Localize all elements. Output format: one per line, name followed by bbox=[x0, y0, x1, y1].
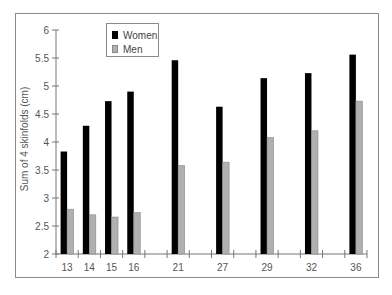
x-tick-label: 21 bbox=[173, 262, 185, 273]
legend-item-men: Men bbox=[112, 43, 142, 55]
women-bar bbox=[127, 92, 134, 254]
y-tick-label: 3.5 bbox=[35, 165, 49, 176]
y-tick-label: 4 bbox=[43, 137, 49, 148]
legend-label-men: Men bbox=[123, 44, 142, 55]
bar-group-21 bbox=[172, 60, 185, 254]
x-tick-label: 36 bbox=[350, 262, 362, 273]
bar-group-14 bbox=[83, 126, 96, 254]
men-bar bbox=[112, 217, 119, 254]
y-axis-title: Sum of 4 skinfolds (cm) bbox=[19, 87, 30, 191]
women-bar bbox=[261, 78, 268, 254]
bar-group-36 bbox=[349, 55, 362, 254]
bar-group-16 bbox=[127, 92, 140, 254]
y-tick-label: 3 bbox=[43, 193, 49, 204]
x-tick-label: 14 bbox=[84, 262, 96, 273]
y-axis: 22.533.544.555.56 bbox=[35, 25, 59, 260]
y-tick-label: 5.5 bbox=[35, 53, 49, 64]
y-tick-label: 5 bbox=[43, 81, 49, 92]
women-bar bbox=[216, 107, 223, 254]
x-tick-label: 13 bbox=[62, 262, 74, 273]
legend-label-women: Women bbox=[123, 30, 157, 41]
y-tick-label: 6 bbox=[43, 25, 49, 36]
legend: Women Men bbox=[106, 23, 159, 57]
men-bar bbox=[356, 101, 363, 254]
men-bar bbox=[134, 213, 141, 254]
men-bar bbox=[267, 138, 274, 254]
legend-item-women: Women bbox=[112, 29, 157, 41]
x-tick-label: 29 bbox=[261, 262, 273, 273]
women-bar bbox=[105, 101, 112, 254]
women-swatch-icon bbox=[112, 31, 118, 39]
y-tick-label: 2.5 bbox=[35, 221, 49, 232]
bar-group-13 bbox=[61, 152, 74, 254]
women-bar bbox=[305, 73, 312, 254]
bar-group-29 bbox=[261, 78, 274, 254]
y-tick-label: 4.5 bbox=[35, 109, 49, 120]
men-bar bbox=[89, 215, 96, 254]
x-tick-label: 16 bbox=[128, 262, 140, 273]
men-swatch-icon bbox=[112, 45, 118, 53]
bar-chart: 22.533.544.555.56 131415162127293236 Sum… bbox=[0, 0, 392, 295]
women-bar bbox=[172, 60, 179, 254]
x-axis: 131415162127293236 bbox=[56, 250, 367, 273]
men-bar bbox=[311, 131, 318, 254]
men-bar bbox=[67, 209, 74, 254]
women-bar bbox=[61, 152, 68, 254]
x-tick-label: 15 bbox=[106, 262, 118, 273]
bar-group-27 bbox=[216, 107, 229, 254]
x-tick-label: 27 bbox=[217, 262, 229, 273]
bar-group-15 bbox=[105, 101, 118, 254]
bar-group-32 bbox=[305, 73, 318, 254]
x-tick-label: 32 bbox=[306, 262, 318, 273]
bars bbox=[61, 55, 363, 254]
women-bar bbox=[83, 126, 90, 254]
women-bar bbox=[349, 55, 356, 254]
men-bar bbox=[178, 166, 185, 254]
men-bar bbox=[223, 162, 230, 254]
y-tick-label: 2 bbox=[43, 249, 49, 260]
